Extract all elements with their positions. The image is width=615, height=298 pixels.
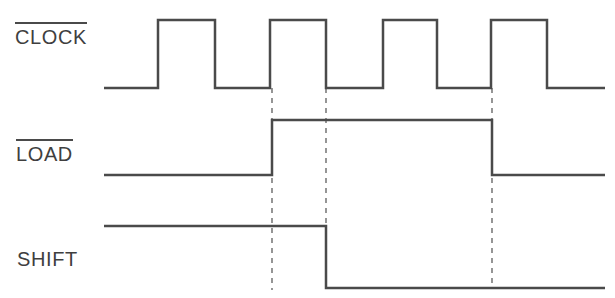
signal-label-shift-text: SHIFT: [17, 244, 78, 269]
signal-label-load: LOAD: [16, 139, 73, 164]
signal-label-shift: SHIFT: [17, 244, 78, 269]
load-waveform: [104, 120, 605, 175]
waveform-group: [104, 20, 605, 288]
timing-diagram: CLOCK LOAD SHIFT: [0, 0, 615, 298]
timing-waveform-canvas: [0, 0, 615, 298]
clock-waveform: [104, 20, 605, 88]
signal-label-load-text: LOAD: [16, 139, 73, 164]
marker-group: [272, 88, 492, 290]
signal-label-clock-text: CLOCK: [15, 22, 87, 47]
shift-waveform: [104, 226, 605, 288]
signal-label-clock: CLOCK: [15, 22, 87, 47]
